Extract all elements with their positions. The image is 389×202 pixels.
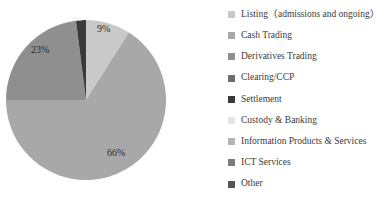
legend-item[interactable]: Clearing/CCP xyxy=(228,68,389,89)
legend-item[interactable]: Listing（admissions and ongoing） xyxy=(228,4,389,25)
legend-item[interactable]: Derivatives Trading xyxy=(228,46,389,67)
pie-slice-value-label: 66% xyxy=(107,148,125,158)
pie-chart-figure: 9%23%66%2% Listing（admissions and ongoin… xyxy=(0,0,389,202)
legend-item[interactable]: Other xyxy=(228,174,389,195)
pie-chart-plot-area: 9%23%66%2% xyxy=(0,0,200,202)
legend-swatch-icon xyxy=(228,159,235,166)
legend-item-label: Clearing/CCP xyxy=(241,73,294,83)
pie-slice-value-label: 23% xyxy=(31,45,49,55)
legend-item[interactable]: Settlement xyxy=(228,89,389,110)
legend-swatch-icon xyxy=(228,32,235,39)
legend-item-label: Other xyxy=(241,179,263,189)
legend-item[interactable]: Information Products & Services xyxy=(228,131,389,152)
legend-swatch-icon xyxy=(228,75,235,82)
legend-item-label: ICT Services xyxy=(241,158,291,168)
legend-swatch-icon xyxy=(228,181,235,188)
pie-slice-value-label: 9% xyxy=(97,24,110,34)
legend-swatch-icon xyxy=(228,117,235,124)
legend-item-label: Settlement xyxy=(241,95,282,105)
legend-swatch-icon xyxy=(228,96,235,103)
legend-item-label: Listing（admissions and ongoing） xyxy=(241,10,380,20)
pie-slice-value-label: 2% xyxy=(72,16,81,23)
legend-swatch-icon xyxy=(228,53,235,60)
legend-item[interactable]: ICT Services xyxy=(228,152,389,173)
legend-item[interactable]: Custody & Banking xyxy=(228,110,389,131)
legend-item-label: Information Products & Services xyxy=(241,137,366,147)
legend-swatch-icon xyxy=(228,11,235,18)
legend-item-label: Custody & Banking xyxy=(241,116,317,126)
legend-swatch-icon xyxy=(228,138,235,145)
legend-item-label: Cash Trading xyxy=(241,31,292,41)
chart-legend: Listing（admissions and ongoing）Cash Trad… xyxy=(228,4,389,200)
legend-item-label: Derivatives Trading xyxy=(241,52,317,62)
legend-item[interactable]: Cash Trading xyxy=(228,25,389,46)
pie-slice[interactable] xyxy=(6,21,86,100)
